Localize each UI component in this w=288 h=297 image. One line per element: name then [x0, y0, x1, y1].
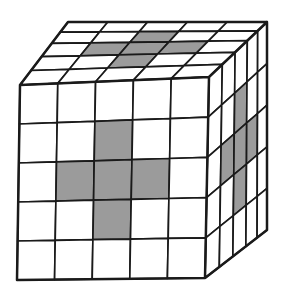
front-cell	[19, 83, 57, 124]
front-face	[17, 77, 209, 280]
cube-figure	[0, 0, 288, 297]
front-cell	[170, 77, 209, 119]
front-cell	[130, 238, 168, 278]
front-cell	[131, 199, 169, 240]
front-shaded-cell	[131, 159, 170, 200]
front-cell	[19, 123, 57, 163]
figure-page	[0, 0, 288, 297]
front-cell	[57, 121, 95, 162]
front-cell	[132, 119, 170, 160]
front-cell	[55, 240, 93, 280]
front-cell	[17, 240, 55, 280]
front-shaded-cell	[94, 120, 133, 161]
front-cell	[18, 201, 56, 241]
front-shaded-cell	[93, 199, 131, 239]
front-cell	[168, 198, 206, 239]
front-cell	[170, 117, 209, 158]
front-shaded-cell	[94, 160, 132, 201]
front-cell	[169, 157, 208, 198]
front-cell	[57, 82, 95, 123]
front-cell	[55, 200, 93, 240]
front-cell	[95, 80, 133, 121]
front-cell	[18, 162, 56, 202]
front-cell	[92, 239, 130, 279]
front-cell	[167, 238, 205, 279]
front-cell	[133, 79, 172, 120]
front-shaded-cell	[56, 161, 94, 201]
